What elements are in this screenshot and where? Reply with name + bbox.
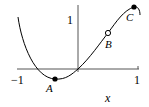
point-c-label: C	[126, 11, 134, 23]
x-tick-min-label: −1	[11, 73, 24, 87]
point-b-label: B	[105, 38, 112, 50]
y-tick-label: 1	[67, 13, 73, 27]
point-c-marker	[131, 4, 136, 9]
function-graph: A B C −1 1 1 x	[0, 0, 149, 107]
x-axis-label: x	[104, 91, 111, 105]
point-a-marker	[52, 76, 57, 81]
point-b-marker	[105, 30, 110, 35]
x-tick-max-label: 1	[134, 73, 140, 87]
point-a-label: A	[45, 82, 53, 94]
function-curve	[18, 7, 140, 79]
